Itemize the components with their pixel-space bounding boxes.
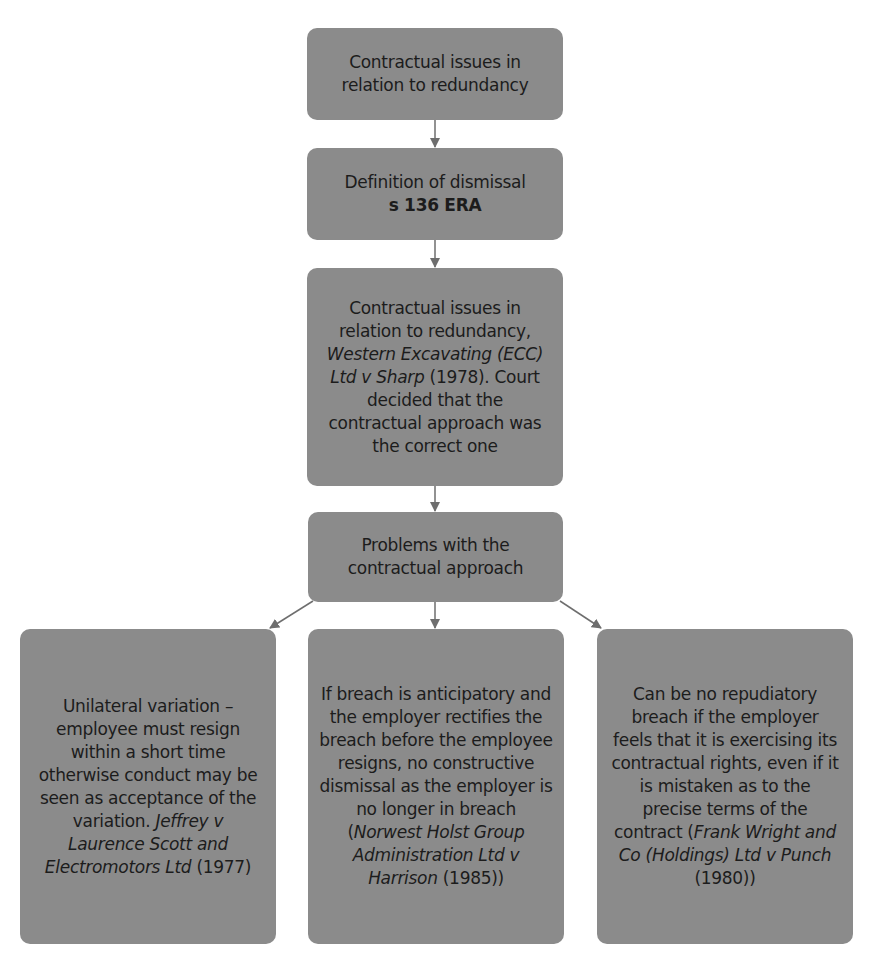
node-text: Contractual issues in relation to redund… (323, 297, 547, 458)
node-text: If breach is anticipatory and the employ… (318, 683, 554, 890)
node-contractual-issues: Contractual issues in relation to redund… (307, 28, 563, 120)
arrow-b4-b7 (560, 601, 601, 628)
node-text: Can be no repudiatory breach if the empl… (611, 683, 839, 890)
node-definition-of-dismissal: Definition of dismissals 136 ERA (307, 148, 563, 240)
node-text: Problems with the contractual approach (318, 534, 553, 580)
node-western-excavating: Contractual issues in relation to redund… (307, 268, 563, 486)
node-unilateral-variation: Unilateral variation – employee must res… (20, 629, 276, 944)
node-text: Unilateral variation – employee must res… (38, 695, 258, 879)
node-no-repudiatory-breach: Can be no repudiatory breach if the empl… (597, 629, 853, 944)
node-text: Definition of dismissals 136 ERA (344, 171, 525, 217)
node-problems-contractual-approach: Problems with the contractual approach (308, 512, 563, 602)
node-text: Contractual issues in relation to redund… (317, 51, 553, 97)
node-anticipatory-breach: If breach is anticipatory and the employ… (308, 629, 564, 944)
arrow-b4-b5 (270, 601, 313, 628)
